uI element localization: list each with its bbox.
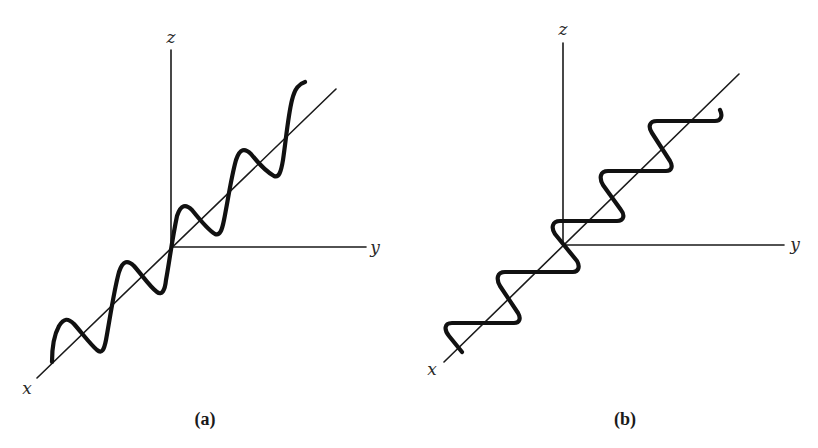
panel-a-diagram (37, 50, 366, 378)
panel-b-x-label: x (427, 361, 437, 378)
panel-a-sinusoidal-wave (52, 82, 305, 362)
panel-a-caption: (a) (195, 410, 216, 428)
panel-a-y-label: y (370, 239, 380, 256)
panel-b-y-label: y (790, 236, 800, 253)
panel-b-z-label: z (559, 21, 568, 38)
panel-b-square-wave (446, 110, 722, 352)
panel-a-x-label: x (22, 380, 32, 397)
figure-drawing (0, 0, 818, 448)
panel-b-diagram (444, 43, 784, 362)
panel-b-caption: (b) (614, 410, 636, 428)
figure: z y x (a) z y x (b) (0, 0, 818, 448)
panel-a-z-label: z (167, 29, 176, 46)
panel-b-x-axis (444, 74, 739, 362)
